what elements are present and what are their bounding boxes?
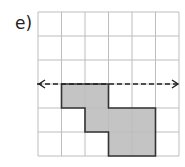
grid-diagram (0, 0, 185, 167)
shaded-cell (85, 84, 109, 108)
shaded-cell (132, 108, 156, 132)
shaded-cell (132, 132, 156, 156)
shaded-cell (109, 132, 133, 156)
shaded-cell (109, 108, 133, 132)
shaded-cell (85, 108, 109, 132)
shaded-cell (62, 84, 86, 108)
